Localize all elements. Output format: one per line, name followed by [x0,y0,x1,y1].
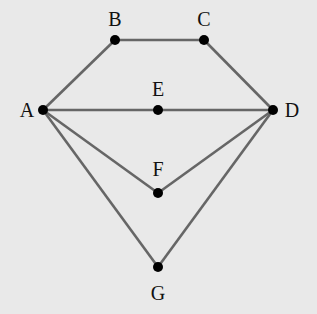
edge-a-b [43,40,115,110]
node-label-g: G [151,282,165,304]
node-label-d: D [285,99,299,121]
node-g [153,262,163,272]
edge-a-g [43,110,158,267]
edge-f-d [158,110,273,193]
edges [43,40,273,267]
node-label-a: A [20,99,35,121]
node-d [268,105,278,115]
node-b [110,35,120,45]
node-label-b: B [108,8,121,30]
edge-g-d [158,110,273,267]
graph-diagram: ABCDEFG [0,0,317,314]
labels: ABCDEFG [20,8,299,304]
node-label-e: E [152,78,164,100]
node-a [38,105,48,115]
node-label-f: F [152,158,163,180]
node-c [199,35,209,45]
edge-a-f [43,110,158,193]
node-label-c: C [197,8,210,30]
edge-c-d [204,40,273,110]
node-f [153,188,163,198]
node-e [153,105,163,115]
